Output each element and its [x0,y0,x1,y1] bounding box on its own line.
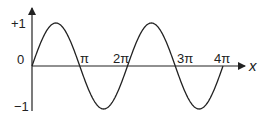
x-tick-4pi: 4π [214,52,230,65]
x-axis-label: x [249,58,257,73]
y-tick-minus-one: −1 [14,100,29,113]
y-tick-plus-one: +1 [11,17,26,30]
x-tick-2pi: 2π [113,52,129,65]
origin-label: 0 [17,53,24,66]
x-tick-3pi: 3π [177,52,193,65]
x-tick-pi: π [80,52,89,65]
